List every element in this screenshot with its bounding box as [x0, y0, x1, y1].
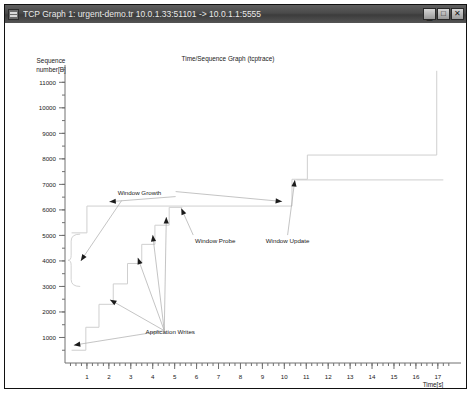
y-axis-label-group: Sequencenumber[B] [36, 57, 66, 74]
maximize-icon: □ [438, 9, 449, 19]
x-tick-group: 1234567891011121314151617 [70, 363, 448, 380]
y-tick-label: 8000 [42, 155, 56, 162]
close-button[interactable]: ✕ [451, 8, 464, 20]
x-tick-label: 3 [129, 373, 133, 380]
x-tick-label: 15 [391, 373, 398, 380]
x-tick-label: 10 [281, 373, 288, 380]
window-probe-arrowhead [181, 208, 186, 215]
window-growth-a-leader [176, 192, 282, 202]
window-growth-b-arrowhead [109, 199, 116, 204]
y-tick-label: 7000 [42, 181, 56, 188]
window-growth-b-leader [109, 197, 175, 202]
y-tick-label: 5000 [42, 232, 56, 239]
app-icon [8, 9, 19, 20]
series-window-update-plateau [292, 155, 437, 179]
close-icon: ✕ [452, 9, 463, 19]
application-writes-2-leader [138, 258, 164, 331]
brace-group [68, 234, 80, 286]
y-tick-label: 11000 [39, 79, 56, 86]
x-tick-label: 16 [412, 373, 419, 380]
x-tick-label: 4 [151, 373, 155, 380]
axes-group [65, 65, 461, 363]
x-tick-label: 14 [369, 373, 376, 380]
series-group [72, 71, 444, 350]
y-tick-label: 1000 [42, 334, 56, 341]
application-writes-0-arrowhead [74, 342, 81, 347]
maximize-button[interactable]: □ [437, 8, 450, 20]
x-tick-label: 2 [107, 373, 111, 380]
y-tick-label: 2000 [42, 308, 56, 315]
x-tick-label: 1 [85, 373, 89, 380]
window-client-area: Time/Sequence Graph (tcptrace) Sequencen… [5, 23, 466, 388]
chart-title-group: Time/Sequence Graph (tcptrace) [182, 55, 275, 63]
x-tick-label: 12 [325, 373, 332, 380]
window-titlebar[interactable]: TCP Graph 1: urgent-demo.tr 10.0.1.33:51… [5, 5, 466, 23]
window-title: TCP Graph 1: urgent-demo.tr 10.0.1.33:51… [23, 5, 423, 23]
x-tick-label: 13 [347, 373, 354, 380]
minimize-button[interactable]: _ [423, 8, 436, 20]
y-tick-label: 10000 [39, 104, 57, 111]
y-axis-label-line1: Sequence [37, 57, 66, 65]
x-axis-label: Time[s] [423, 381, 444, 388]
x-tick-label: 8 [239, 373, 243, 380]
application-writes-4-arrowhead [164, 217, 169, 224]
window-update-leader [288, 180, 295, 235]
application-writes-4-leader [164, 217, 166, 331]
application-writes-3-leader [153, 235, 165, 331]
x-tick-label: 5 [173, 373, 177, 380]
y-axis-label-line2: number[B] [36, 66, 66, 74]
y-tick-label: 9000 [42, 130, 56, 137]
initial-window-brace [68, 234, 80, 286]
y-tick-label: 6000 [42, 206, 56, 213]
annotation-window-update: Window Update [266, 237, 310, 244]
tcp-graph-window: TCP Graph 1: urgent-demo.tr 10.0.1.33:51… [4, 4, 467, 389]
x-tick-label: 17 [434, 373, 441, 380]
x-tick-label: 6 [195, 373, 199, 380]
y-tick-label: 4000 [42, 257, 56, 264]
application-writes-1-leader [110, 300, 164, 331]
minimize-icon: _ [424, 9, 435, 19]
time-sequence-chart: Time/Sequence Graph (tcptrace) Sequencen… [5, 23, 466, 388]
chart-title: Time/Sequence Graph (tcptrace) [182, 55, 275, 63]
x-tick-label: 7 [217, 373, 221, 380]
window-growth-a-arrowhead [275, 198, 282, 203]
x-tick-label: 9 [261, 373, 265, 380]
annotation-window-probe: Window Probe [195, 237, 236, 244]
x-axis-label-group: Time[s] [423, 381, 444, 388]
x-tick-label: 11 [303, 373, 310, 380]
leader-line-group [74, 180, 297, 347]
chart-canvas: Time/Sequence Graph (tcptrace) Sequencen… [5, 23, 466, 388]
annotation-group: Window GrowthWindow ProbeWindow UpdateAp… [118, 189, 310, 335]
window-growth-c-arrowhead [81, 254, 87, 261]
annotation-window-growth: Window Growth [118, 189, 162, 196]
window-controls: _ □ ✕ [423, 8, 464, 20]
y-tick-label: 3000 [42, 283, 56, 290]
annotation-application-writes: Application Writes [146, 328, 195, 335]
y-tick-group: 1000200030004000500060007000800090001000… [39, 70, 65, 351]
